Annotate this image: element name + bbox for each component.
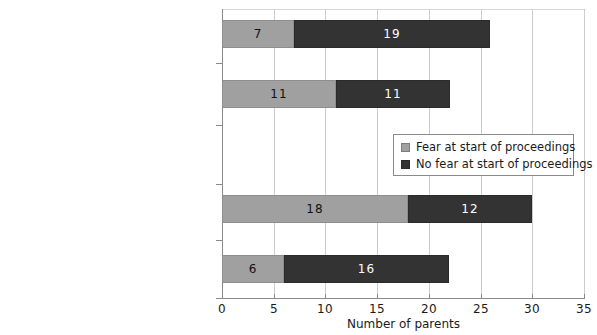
x-axis-line bbox=[222, 298, 585, 299]
x-tick-mark-0 bbox=[222, 294, 223, 299]
legend-label-fear: Fear at start of proceedings bbox=[416, 140, 575, 154]
legend-item-fear: Fear at start of proceedings bbox=[401, 139, 575, 155]
bar-segment-no-fear-1: 11 bbox=[336, 80, 450, 108]
x-tick-mark-5 bbox=[274, 294, 275, 299]
x-tick-label-30: 30 bbox=[512, 302, 552, 316]
bar-segment-fear-1: 11 bbox=[222, 80, 336, 108]
bar-segment-fear-0: 7 bbox=[222, 20, 294, 48]
y-tick-mark-1 bbox=[216, 125, 222, 126]
bar-segment-no-fear-3: 16 bbox=[284, 255, 449, 283]
x-tick-mark-25 bbox=[481, 294, 482, 299]
legend-swatch-fear-icon bbox=[401, 143, 410, 152]
x-axis-title: Number of parents bbox=[222, 317, 585, 331]
bar-value-label: 12 bbox=[409, 203, 531, 215]
bar-segment-fear-3: 6 bbox=[222, 255, 284, 283]
x-tick-label-25: 25 bbox=[461, 302, 501, 316]
bar-segment-no-fear-2: 12 bbox=[408, 195, 532, 223]
x-tick-mark-35 bbox=[584, 294, 585, 299]
x-tick-label-10: 10 bbox=[305, 302, 345, 316]
gridline-35 bbox=[584, 9, 585, 298]
y-tick-mark-2 bbox=[216, 184, 222, 185]
bar-value-label: 11 bbox=[337, 88, 449, 100]
x-tick-mark-20 bbox=[429, 294, 430, 299]
x-tick-label-5: 5 bbox=[254, 302, 294, 316]
x-tick-mark-30 bbox=[532, 294, 533, 299]
legend-label-no-fear: No fear at start of proceedings bbox=[416, 157, 593, 171]
x-tick-label-15: 15 bbox=[357, 302, 397, 316]
legend: Fear at start of proceedings No fear at … bbox=[393, 134, 574, 176]
bar-segment-fear-2: 18 bbox=[222, 195, 408, 223]
x-tick-label-35: 35 bbox=[564, 302, 597, 316]
y-tick-mark-0 bbox=[216, 63, 222, 64]
plot-frame-top bbox=[222, 9, 585, 10]
bar-value-label: 19 bbox=[295, 28, 489, 40]
bar-value-label: 11 bbox=[223, 88, 335, 100]
x-tick-mark-10 bbox=[325, 294, 326, 299]
bar-segment-no-fear-0: 19 bbox=[294, 20, 490, 48]
legend-item-no-fear: No fear at start of proceedings bbox=[401, 156, 593, 172]
bar-value-label: 18 bbox=[223, 203, 407, 215]
x-tick-mark-15 bbox=[377, 294, 378, 299]
bar-value-label: 16 bbox=[285, 263, 448, 275]
x-tick-label-20: 20 bbox=[409, 302, 449, 316]
bar-value-label: 6 bbox=[223, 263, 283, 275]
x-tick-label-0: 0 bbox=[202, 302, 242, 316]
bar-value-label: 7 bbox=[223, 28, 293, 40]
y-tick-mark-4 bbox=[216, 298, 222, 299]
legend-swatch-no-fear-icon bbox=[401, 160, 410, 169]
y-tick-mark-3 bbox=[216, 240, 222, 241]
